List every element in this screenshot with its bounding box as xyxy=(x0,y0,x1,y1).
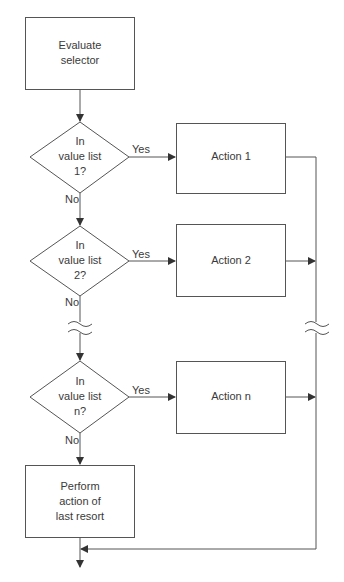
decision1-label-line1: In xyxy=(30,134,130,149)
actionN-label: Action n xyxy=(176,389,286,404)
decisionN-label-line2: value list xyxy=(30,389,130,404)
noN-label: No xyxy=(65,434,79,447)
decisionN-label: In value list n? xyxy=(30,374,130,419)
yes2-label: Yes xyxy=(132,248,150,261)
decision1-label-line2: value list xyxy=(30,149,130,164)
decision2-label-line2: value list xyxy=(30,253,130,268)
yes1-label: Yes xyxy=(132,143,150,156)
start-label-line2: selector xyxy=(25,53,135,68)
yesN-label: Yes xyxy=(132,384,150,397)
decisionN-label-line1: In xyxy=(30,374,130,389)
decision1-label-line3: 1? xyxy=(30,164,130,179)
action2-label: Action 2 xyxy=(176,253,286,268)
decision1-label: In value list 1? xyxy=(30,134,130,179)
decisionN-label-line3: n? xyxy=(30,404,130,419)
decision2-label-line3: 2? xyxy=(30,268,130,283)
last-resort-label-line3: last resort xyxy=(25,509,135,524)
decision2-label: In value list 2? xyxy=(30,238,130,283)
left-flow-break xyxy=(68,322,92,335)
last-resort-label-line1: Perform xyxy=(25,479,135,494)
no2-label: No xyxy=(65,296,79,309)
start-label: Evaluate selector xyxy=(25,38,135,68)
last-resort-label: Perform action of last resort xyxy=(25,479,135,524)
no1-label: No xyxy=(65,193,79,206)
start-label-line1: Evaluate xyxy=(25,38,135,53)
actionN-label-line1: Action n xyxy=(176,389,286,404)
right-flow-break xyxy=(305,322,329,335)
action1-label-line1: Action 1 xyxy=(176,149,286,164)
action2-label-line1: Action 2 xyxy=(176,253,286,268)
decision2-label-line1: In xyxy=(30,238,130,253)
action1-label: Action 1 xyxy=(176,149,286,164)
last-resort-label-line2: action of xyxy=(25,494,135,509)
